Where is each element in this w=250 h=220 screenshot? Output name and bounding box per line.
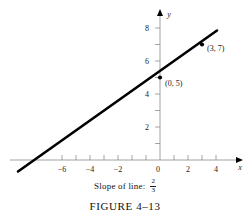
slope-denominator: 3	[150, 187, 156, 194]
figure-container: −6 −4 −2 0 2 4 2 4 6 8 x y (0, 5) (3, 7)…	[0, 0, 250, 220]
x-tick-label: 0	[156, 165, 160, 174]
point-label-second-point: (3, 7)	[207, 44, 225, 53]
data-point-marker	[158, 75, 162, 79]
x-tick-label: 4	[214, 165, 218, 174]
coordinate-plot: −6 −4 −2 0 2 4 2 4 6 8 x y (0, 5) (3, 7)	[0, 0, 250, 175]
y-tick-label: 2	[145, 123, 149, 132]
y-tick-label: 4	[145, 90, 149, 99]
slope-annotation: Slope of line:23	[0, 178, 250, 195]
x-tick-label: −4	[86, 165, 95, 174]
point-label-origin-intercept: (0, 5)	[165, 79, 183, 88]
slope-fraction: 23	[150, 178, 156, 195]
x-tick-label: 2	[186, 165, 190, 174]
slope-numerator: 2	[150, 178, 156, 185]
slope-label: Slope of line:	[94, 181, 145, 191]
y-axis-arrow-icon	[157, 9, 163, 16]
plotted-line	[18, 31, 217, 172]
y-tick-label: 8	[145, 24, 149, 33]
x-tick-label: −6	[58, 165, 67, 174]
x-tick-label: −2	[114, 165, 123, 174]
x-axis-name: x	[237, 163, 242, 172]
figure-caption: FIGURE 4–13	[0, 200, 250, 212]
y-axis-name: y	[166, 10, 171, 19]
y-tick-label: 6	[145, 57, 149, 66]
data-point-marker	[200, 42, 204, 46]
